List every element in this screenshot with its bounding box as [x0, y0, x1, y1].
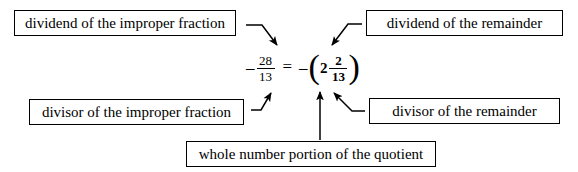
- close-paren: ): [348, 54, 359, 81]
- arrow-dividend-remainder-to-numerator: [332, 24, 362, 45]
- label-text-whole-number-portion: whole number portion of the quotient: [199, 147, 424, 162]
- remainder-fraction-numerator: 2: [333, 54, 344, 68]
- mixed-number: 2 2 13: [320, 54, 349, 83]
- label-text-divisor-improper-fraction: divisor of the improper fraction: [42, 105, 231, 120]
- label-box-dividend-remainder: dividend of the remainder: [366, 10, 563, 36]
- label-text-divisor-remainder: divisor of the remainder: [392, 104, 537, 119]
- arrow-divisor-remainder-to-denominator: [334, 93, 365, 111]
- label-text-dividend-remainder: dividend of the remainder: [387, 16, 542, 31]
- arrow-divisor-improper-to-denominator: [251, 93, 271, 110]
- arrow-dividend-improper-to-numerator: [246, 25, 277, 45]
- label-box-divisor-remainder: divisor of the remainder: [369, 98, 560, 124]
- remainder-fraction: 2 13: [329, 54, 347, 83]
- minus-sign-right: –: [299, 59, 309, 76]
- mixed-number-whole-part: 2: [320, 60, 329, 77]
- equals-sign: =: [283, 57, 293, 77]
- label-box-dividend-improper-fraction: dividend of the improper fraction: [14, 10, 236, 36]
- label-box-whole-number-portion: whole number portion of the quotient: [186, 141, 436, 167]
- improper-fraction: 28 13: [257, 54, 275, 83]
- label-box-divisor-improper-fraction: divisor of the improper fraction: [29, 99, 244, 125]
- minus-sign-left: –: [246, 59, 256, 76]
- improper-fraction-denominator: 13: [257, 69, 274, 83]
- label-text-dividend-improper-fraction: dividend of the improper fraction: [25, 16, 225, 31]
- math-expression: – 28 13 = – ( 2 2 13 ): [246, 46, 360, 90]
- improper-fraction-numerator: 28: [257, 54, 274, 68]
- remainder-fraction-denominator: 13: [330, 69, 347, 83]
- diagram-canvas: dividend of the improper fraction divide…: [0, 0, 578, 172]
- open-paren: (: [309, 54, 320, 81]
